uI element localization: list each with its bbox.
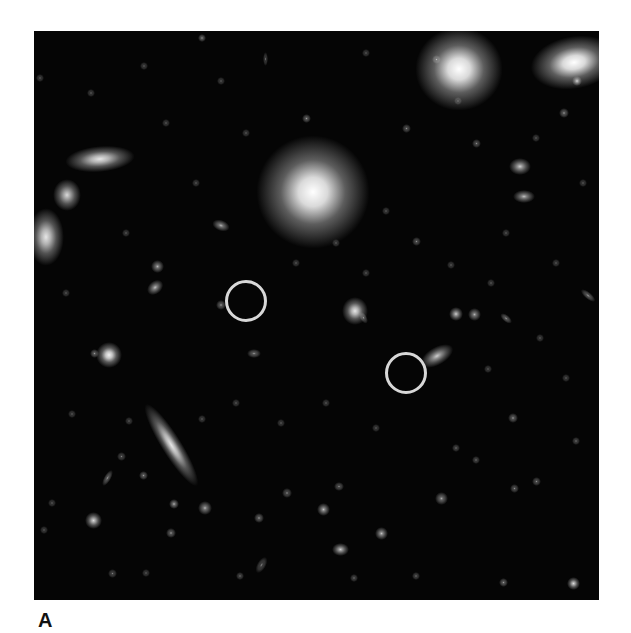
celestial-object	[536, 334, 543, 341]
celestial-object	[412, 572, 419, 579]
celestial-object	[263, 52, 268, 66]
deep-field-image	[34, 31, 599, 600]
highlight-circle-marker	[225, 280, 267, 322]
celestial-object	[144, 277, 166, 298]
celestial-object	[350, 574, 357, 581]
celestial-object	[192, 179, 199, 186]
celestial-object	[513, 190, 535, 203]
celestial-object	[362, 49, 369, 56]
celestial-object	[108, 569, 117, 578]
celestial-object	[412, 237, 421, 246]
celestial-object	[432, 55, 441, 64]
celestial-object	[509, 158, 531, 174]
celestial-object	[198, 501, 212, 515]
celestial-object	[499, 578, 508, 587]
celestial-object	[562, 374, 569, 381]
celestial-object	[322, 399, 329, 406]
celestial-object	[472, 139, 481, 148]
celestial-object	[282, 488, 293, 499]
celestial-object	[452, 444, 459, 451]
celestial-object	[254, 513, 265, 524]
highlight-circle-marker	[385, 352, 427, 394]
celestial-object	[532, 134, 539, 141]
celestial-object	[334, 482, 345, 491]
celestial-object	[100, 468, 115, 487]
celestial-object	[125, 417, 132, 424]
celestial-object	[532, 477, 541, 486]
celestial-object	[34, 208, 64, 265]
celestial-object	[382, 207, 389, 214]
celestial-object	[198, 415, 205, 422]
celestial-object	[559, 108, 570, 119]
celestial-object	[435, 492, 448, 505]
celestial-object	[68, 410, 75, 417]
celestial-object	[487, 279, 494, 286]
celestial-object	[247, 349, 261, 358]
celestial-object	[169, 499, 180, 510]
celestial-object	[139, 471, 148, 480]
celestial-object	[402, 124, 411, 133]
celestial-object	[90, 349, 99, 358]
celestial-object	[162, 119, 169, 126]
celestial-object	[142, 569, 149, 576]
celestial-object	[526, 31, 599, 96]
celestial-object	[449, 307, 463, 321]
celestial-object	[48, 499, 55, 506]
celestial-object	[232, 399, 239, 406]
celestial-object	[85, 512, 101, 528]
celestial-object	[579, 179, 586, 186]
celestial-object	[292, 259, 299, 266]
celestial-object	[40, 526, 47, 533]
celestial-object	[53, 179, 82, 211]
celestial-object	[502, 229, 509, 236]
celestial-object	[151, 260, 164, 273]
celestial-object	[253, 555, 270, 575]
panel-label: A	[38, 610, 52, 630]
celestial-object	[375, 527, 388, 540]
celestial-object	[572, 437, 579, 444]
celestial-object	[510, 484, 519, 493]
celestial-object	[332, 543, 348, 556]
celestial-object	[317, 503, 330, 516]
celestial-object	[236, 572, 243, 579]
celestial-object	[447, 261, 454, 268]
celestial-object	[472, 456, 479, 463]
celestial-object	[468, 308, 481, 321]
celestial-object	[122, 229, 129, 236]
celestial-object	[166, 528, 177, 539]
celestial-object	[140, 62, 147, 69]
celestial-object	[579, 287, 597, 304]
celestial-object	[242, 129, 249, 136]
celestial-object	[211, 217, 232, 233]
celestial-object	[332, 239, 339, 246]
celestial-object	[567, 577, 580, 590]
celestial-object	[277, 419, 284, 426]
celestial-object	[62, 289, 69, 296]
celestial-object	[198, 34, 205, 41]
celestial-object	[117, 452, 126, 461]
celestial-object	[64, 143, 136, 175]
celestial-object	[36, 74, 43, 81]
celestial-object	[87, 89, 94, 96]
celestial-object	[572, 76, 583, 87]
celestial-object	[256, 135, 370, 249]
celestial-object	[217, 77, 224, 84]
celestial-object	[498, 312, 514, 327]
celestial-object	[484, 365, 491, 372]
celestial-object	[362, 269, 369, 276]
celestial-object	[552, 259, 559, 266]
celestial-object	[372, 424, 379, 431]
celestial-object	[508, 413, 519, 424]
celestial-object	[302, 114, 311, 123]
celestial-object	[96, 342, 121, 367]
